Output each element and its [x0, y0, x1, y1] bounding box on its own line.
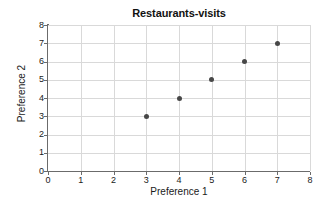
chart-title: Restaurants-visits	[48, 7, 310, 19]
y-tick-label: 1	[30, 148, 44, 157]
y-tick-label: 6	[30, 57, 44, 66]
x-tick-label: 6	[237, 176, 253, 185]
gridline-vertical	[245, 25, 246, 171]
x-tick-mark	[212, 172, 213, 175]
y-tick-label: 5	[30, 75, 44, 84]
gridline-vertical	[277, 25, 278, 171]
x-tick-mark	[310, 172, 311, 175]
data-point	[177, 96, 182, 101]
y-tick-label: 3	[30, 112, 44, 121]
y-tick-mark	[44, 62, 47, 63]
y-tick-mark	[44, 116, 47, 117]
y-tick-mark	[44, 80, 47, 81]
gridline-vertical	[114, 25, 115, 171]
gridline-vertical	[310, 25, 311, 171]
y-tick-label: 4	[30, 94, 44, 103]
x-tick-mark	[114, 172, 115, 175]
x-tick-mark	[81, 172, 82, 175]
y-tick-label: 0	[30, 167, 44, 176]
x-tick-mark	[179, 172, 180, 175]
y-axis-label: Preference 2	[16, 21, 27, 167]
x-tick-label: 1	[73, 176, 89, 185]
y-tick-label: 7	[30, 39, 44, 48]
y-tick-mark	[44, 98, 47, 99]
x-axis-label: Preference 1	[48, 186, 310, 197]
x-tick-mark	[146, 172, 147, 175]
y-tick-mark	[44, 25, 47, 26]
x-tick-label: 0	[40, 176, 56, 185]
x-tick-label: 7	[269, 176, 285, 185]
data-point	[209, 77, 214, 82]
y-tick-mark	[44, 135, 47, 136]
x-tick-label: 4	[171, 176, 187, 185]
x-tick-label: 3	[138, 176, 154, 185]
data-point	[144, 114, 149, 119]
plot-area	[48, 25, 310, 171]
y-tick-mark	[44, 171, 47, 172]
y-tick-mark	[44, 153, 47, 154]
y-axis-tick-labels: 012345678	[26, 25, 44, 171]
x-tick-mark	[277, 172, 278, 175]
gridline-vertical	[146, 25, 147, 171]
x-tick-label: 8	[302, 176, 318, 185]
x-tick-mark	[245, 172, 246, 175]
gridline-vertical	[81, 25, 82, 171]
y-tick-mark	[44, 43, 47, 44]
data-point	[242, 59, 247, 64]
scatter-chart: Restaurants-visits 012345678 012345678 P…	[0, 0, 331, 205]
y-tick-label: 8	[30, 21, 44, 30]
x-tick-label: 5	[204, 176, 220, 185]
x-tick-label: 2	[106, 176, 122, 185]
x-tick-mark	[48, 172, 49, 175]
gridline-vertical	[212, 25, 213, 171]
y-tick-label: 2	[30, 130, 44, 139]
data-point	[275, 41, 280, 46]
